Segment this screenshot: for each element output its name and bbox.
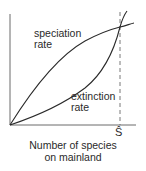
x-axis-label-line1: Number of species xyxy=(0,140,146,152)
speciation-rate-label: speciation rate xyxy=(34,28,81,50)
speciation-label-line2: rate xyxy=(34,39,81,50)
x-axis-label-line2: on mainland xyxy=(0,152,146,164)
x-axis-label: Number of species on mainland xyxy=(0,140,146,163)
extinction-label-line2: rate xyxy=(71,102,115,113)
equilibrium-label: Ŝ xyxy=(115,127,122,138)
extinction-rate-label: extinction rate xyxy=(71,91,115,113)
